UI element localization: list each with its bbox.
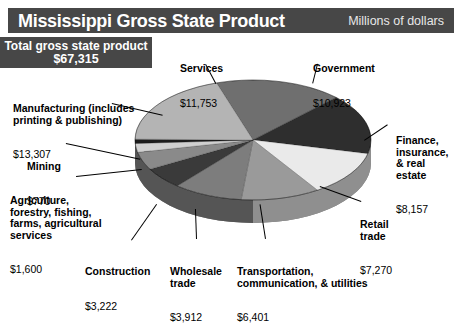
label-retail: Retail trade $7,270 <box>360 196 392 300</box>
label-wholesale-value: $3,912 <box>170 312 222 324</box>
label-agriculture-name: Agriculture, forestry, fishing, farms, a… <box>10 195 102 241</box>
total-label: Total gross state product <box>0 39 152 53</box>
label-retail-name: Retail trade <box>360 219 392 242</box>
label-mining-name: Mining <box>27 161 61 173</box>
label-finance-value: $8,157 <box>396 204 449 216</box>
label-wholesale: Wholesale trade $3,912 <box>170 243 222 327</box>
chart-header-bar: Mississippi Gross State Product Millions… <box>8 8 454 33</box>
label-construction-name: Construction <box>85 266 150 278</box>
label-transportation-name: Transportation, communication, & utiliti… <box>237 266 368 289</box>
label-manufacturing-name: Manufacturing (includes printing & publi… <box>13 103 134 126</box>
label-finance: Finance, insurance, & real estate $8,157 <box>396 112 449 239</box>
label-services-name: Services <box>180 63 223 75</box>
label-services: Services $11,753 <box>180 40 223 132</box>
label-construction-value: $3,222 <box>85 301 150 313</box>
label-government: Government $10,923 <box>313 40 375 132</box>
label-transportation: Transportation, communication, & utiliti… <box>237 243 368 327</box>
label-government-name: Government <box>313 63 375 75</box>
label-services-value: $11,753 <box>180 98 223 110</box>
page-title: Mississippi Gross State Product <box>18 11 285 31</box>
total-gross-state-product-box: Total gross state product $67,315 <box>0 37 152 68</box>
units-label: Millions of dollars <box>348 13 444 29</box>
label-wholesale-name: Wholesale trade <box>170 266 222 289</box>
label-finance-name: Finance, insurance, & real estate <box>396 135 449 181</box>
label-government-value: $10,923 <box>313 98 375 110</box>
label-transportation-value: $6,401 <box>237 312 368 324</box>
total-value: $67,315 <box>0 52 152 66</box>
label-retail-value: $7,270 <box>360 265 392 277</box>
label-construction: Construction $3,222 <box>85 243 150 327</box>
